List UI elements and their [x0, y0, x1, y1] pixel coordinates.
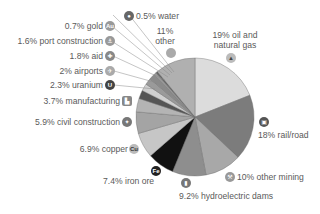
label-oil-gas-line2: natural gas	[200, 40, 270, 50]
trowel-icon: ✦	[122, 117, 132, 127]
dam-icon: ▮	[181, 178, 191, 188]
oil-rig-icon: ▲	[226, 53, 236, 63]
label-iron-ore: 7.4% iron ore	[103, 176, 154, 186]
airplane-icon: ✈	[105, 66, 115, 76]
cu-icon: Cu	[129, 144, 139, 154]
label-airports: 2% airports	[60, 66, 103, 76]
label-hydroelectric-dams: 9.2% hydroelectric dams	[179, 191, 273, 201]
uranium-icon: U	[105, 80, 115, 90]
label-aid: 1.8% aid	[70, 51, 103, 61]
au-icon: Au	[105, 21, 115, 31]
label-rail-road: 18% rail/road	[258, 130, 309, 140]
label-other: 11% other	[150, 26, 180, 46]
pie-slices	[136, 58, 254, 176]
label-gold: 0.7% gold	[65, 21, 103, 31]
pickaxe-icon: ⚒	[225, 172, 235, 182]
label-uranium: 2.3% uranium	[50, 80, 103, 90]
water-drop-icon: ●	[124, 11, 134, 21]
label-water: 0.5% water	[136, 11, 179, 21]
label-oil-gas-line1: 19% oil and	[200, 30, 270, 40]
label-other-name: other	[150, 36, 180, 46]
label-oil-gas: 19% oil and natural gas	[200, 30, 270, 50]
circle-icon	[166, 48, 176, 58]
label-port-construction: 1.6% port construction	[17, 36, 103, 46]
factory-icon: ▙	[122, 96, 132, 106]
train-icon: ▣	[259, 117, 269, 127]
label-civil-construction: 5.9% civil construction	[35, 117, 120, 127]
label-manufacturing: 3.7% manufacturing	[44, 96, 120, 106]
label-copper: 6.9% copper	[80, 144, 128, 154]
anchor-icon: ⚓	[105, 36, 115, 46]
label-other-mining: 10% other mining	[237, 172, 304, 182]
fe-icon: Fe	[151, 166, 161, 176]
label-other-pct: 11%	[150, 26, 180, 36]
cross-icon: ✚	[105, 51, 115, 61]
